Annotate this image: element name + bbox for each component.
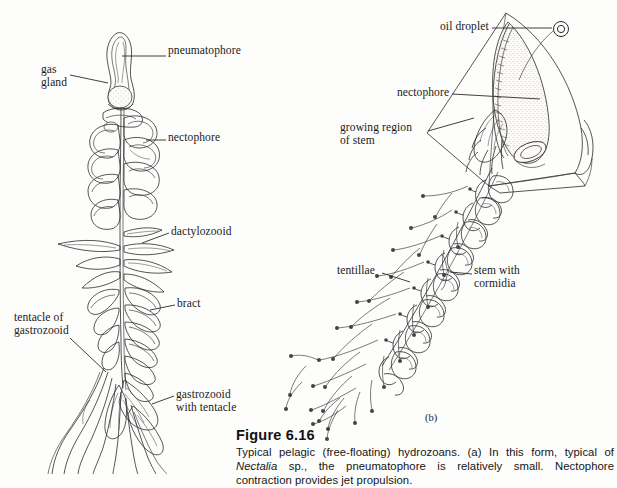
figure-number: Figure 6.16 xyxy=(236,427,614,443)
label-oil-droplet: oil droplet xyxy=(440,20,489,33)
label-stem-with-cormidia: stem with cormidia xyxy=(474,264,520,289)
leader-bract xyxy=(150,305,175,310)
nectophore-cluster xyxy=(88,116,160,230)
label-pneumatophore: pneumatophore xyxy=(168,44,241,57)
pneumatophore-shape xyxy=(107,33,134,110)
label-bract: bract xyxy=(177,297,200,310)
figure-caption-block: Figure 6.16 Typical pelagic (free-floati… xyxy=(236,427,614,488)
label-tentillae: tentillae xyxy=(337,264,375,277)
leader-gastrozooid-with-tentacle xyxy=(152,396,174,404)
label-growing-region-of-stem: growing region of stem xyxy=(340,121,412,146)
figure-caption-text: Typical pelagic (free-floating) hydrozoa… xyxy=(236,445,614,488)
leader-dactylozooid xyxy=(142,233,169,243)
panel-tag-b: (b) xyxy=(425,412,437,423)
label-gas-gland: gas gland xyxy=(41,63,67,88)
label-nectophore-a: nectophore xyxy=(168,131,220,144)
leader-growing-region xyxy=(428,118,474,131)
oil-droplet-icon xyxy=(554,22,569,37)
tentillae-cluster xyxy=(284,186,468,441)
label-gastrozooid-with-tentacle: gastrozooid with tentacle xyxy=(176,388,236,413)
leader-gas-gland xyxy=(70,75,108,83)
leader-lines xyxy=(70,28,552,404)
species-name: Nectalia xyxy=(236,460,277,472)
panel-b-illustration xyxy=(284,10,593,441)
label-dactylozooid: dactylozooid xyxy=(171,225,232,238)
panel-a-illustration xyxy=(48,33,174,474)
leader-tentillae xyxy=(382,273,410,282)
label-nectophore-b: nectophore xyxy=(397,86,449,99)
label-tentacle-of-gastrozooid: tentacle of gastrozooid xyxy=(14,311,69,336)
leader-tentacle-of-gastrozooid xyxy=(70,338,106,372)
